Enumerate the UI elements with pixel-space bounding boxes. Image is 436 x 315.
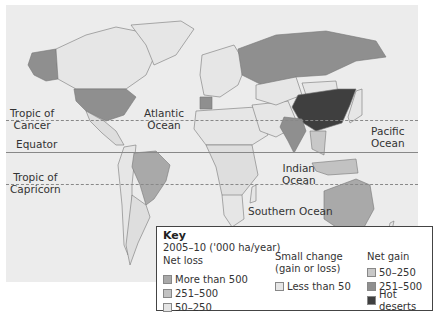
region-russia — [238, 31, 386, 87]
label-tropic-of-capricorn: Tropic of Capricorn — [10, 171, 61, 195]
label-line-2: Ocean — [371, 137, 405, 149]
label-line-2: Ocean — [282, 174, 316, 186]
small-change-heading-1: Small change — [275, 251, 351, 263]
legend-label: More than 500 — [175, 274, 248, 286]
label-pacific-ocean: Pacific Ocean — [371, 125, 405, 149]
key-net-loss: Net loss More than 500 251–500 50–250 — [163, 255, 248, 314]
legend-gain-50-250: 50–250 — [367, 266, 432, 279]
swatch-gain-251-500 — [367, 282, 376, 291]
tropic-of-capricorn-line — [6, 184, 418, 185]
region-alaska — [28, 49, 58, 81]
region-africa-south — [222, 195, 244, 227]
small-change-heading-2: (gain or loss) — [275, 263, 351, 275]
label-line-2: Ocean — [144, 119, 184, 131]
label-line-1: Tropic of — [10, 107, 54, 119]
swatch-loss-more-500 — [163, 275, 172, 284]
legend-loss-more-500: More than 500 — [163, 273, 248, 286]
key-small-change: Small change (gain or loss) Less than 50 — [275, 251, 351, 293]
legend-loss-251-500: 251–500 — [163, 287, 248, 300]
region-india — [280, 117, 306, 153]
net-gain-heading: Net gain — [367, 251, 432, 263]
label-southern-ocean: Southern Ocean — [248, 205, 333, 217]
label-line-2: Cancer — [10, 119, 54, 131]
swatch-loss-50-250 — [163, 303, 172, 312]
map-key: Key 2005–10 ('000 ha/year) Net loss More… — [156, 226, 433, 311]
label-equator: Equator — [16, 138, 57, 150]
label-line-1: Tropic of — [10, 171, 61, 183]
label-line-1: Pacific — [371, 125, 405, 137]
legend-label: Hot deserts — [379, 289, 432, 313]
net-loss-heading: Net loss — [163, 255, 248, 267]
legend-label: 251–500 — [175, 288, 218, 300]
swatch-hot-deserts — [367, 296, 376, 305]
region-spain — [200, 97, 212, 109]
label-line-1: Atlantic — [144, 107, 184, 119]
legend-label: Less than 50 — [287, 281, 351, 293]
legend-hot-deserts: Hot deserts — [367, 294, 432, 307]
legend-small-change: Less than 50 — [275, 280, 351, 293]
tropic-of-cancer-line — [6, 120, 418, 121]
equator-line — [6, 152, 418, 153]
key-net-gain: Net gain 50–250 251–500 Hot deserts — [367, 251, 432, 307]
region-brazil — [132, 151, 170, 205]
region-usa — [74, 89, 136, 121]
legend-label: 50–250 — [379, 267, 416, 279]
legend-label: 50–250 — [175, 302, 212, 314]
label-tropic-of-cancer: Tropic of Cancer — [10, 107, 54, 131]
key-title: Key — [163, 230, 426, 242]
label-atlantic-ocean: Atlantic Ocean — [144, 107, 184, 131]
swatch-gain-50-250 — [367, 268, 376, 277]
label-line-1: Indian — [282, 162, 316, 174]
legend-loss-50-250: 50–250 — [163, 301, 248, 314]
region-madagascar — [250, 185, 256, 203]
label-line-2: Capricorn — [10, 183, 61, 195]
region-indonesia — [312, 159, 358, 175]
swatch-loss-251-500 — [163, 289, 172, 298]
swatch-small-change — [275, 282, 284, 291]
label-indian-ocean: Indian Ocean — [282, 162, 316, 186]
